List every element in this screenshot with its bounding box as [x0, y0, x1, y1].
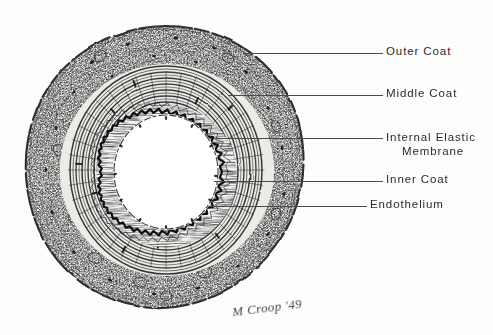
label-endothelium: Endothelium [370, 198, 444, 211]
illustration-plate: Outer Coat Middle Coat Internal Elastic … [0, 0, 493, 335]
label-internal-elastic-membrane-text-line1: Internal Elastic [386, 131, 476, 143]
label-middle-coat: Middle Coat [386, 87, 457, 100]
label-outer-coat: Outer Coat [386, 45, 451, 58]
label-internal-elastic-membrane: Internal Elastic Membrane [386, 130, 476, 158]
label-endothelium-text: Endothelium [370, 198, 444, 210]
lumen-region [113, 114, 219, 230]
label-inner-coat: Inner Coat [386, 173, 449, 186]
label-outer-coat-text: Outer Coat [386, 45, 451, 57]
label-internal-elastic-membrane-text-line2: Membrane [386, 144, 476, 158]
label-middle-coat-text: Middle Coat [386, 87, 457, 99]
label-inner-coat-text: Inner Coat [386, 173, 449, 185]
